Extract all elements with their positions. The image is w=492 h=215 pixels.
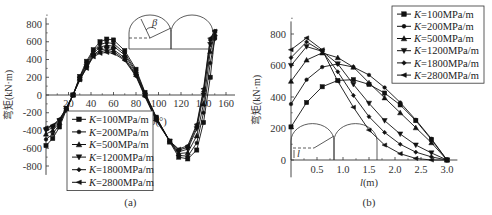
x-tick-label: 1.0 [336, 164, 349, 175]
tunnel-inset-a: β [129, 15, 213, 49]
chart-a: -800-600-400-200020040060080020406080100… [2, 15, 235, 209]
x-tick-label: 3.0 [440, 164, 453, 175]
data-point-circle [402, 24, 406, 28]
x-tick-label: 120 [173, 98, 189, 109]
y-tick-label: 600 [270, 60, 286, 71]
data-point-triangle-left [351, 105, 356, 109]
chart-b: 02004006008000.51.01.52.02.53.0l(m)弯矩(kN… [250, 6, 484, 209]
legend-label: K=100MPa/m [88, 114, 149, 125]
y-tick-label: -600 [23, 143, 42, 154]
legend-label: K=200MPa/m [413, 21, 474, 32]
data-point-circle [289, 102, 293, 106]
y-tick-label: -200 [23, 107, 42, 118]
legend-label: K=500MPa/m [88, 139, 149, 150]
figure-canvas: -800-600-400-200020040060080020406080100… [0, 0, 492, 215]
y-tick-label: 0 [281, 155, 286, 166]
data-point-square [383, 91, 387, 95]
y-tick-label: -800 [23, 161, 42, 172]
data-point-circle [383, 86, 387, 90]
data-point-square [44, 143, 48, 147]
panel-caption-b: (b) [363, 196, 376, 209]
data-point-circle [367, 73, 371, 77]
x-tick-label: 2.0 [388, 164, 401, 175]
x-tick-label: 80 [131, 98, 142, 109]
legend: K=100MPa/mK=200MPa/mK=500MPa/mK=1200MPa/… [67, 111, 154, 191]
y-axis-label: 弯矩(kN·m) [250, 75, 263, 125]
x-tick-label: 100 [151, 98, 167, 109]
x-axis-label: l(m) [360, 177, 379, 189]
y-tick-label: 0 [37, 90, 42, 101]
data-point-square [77, 117, 82, 122]
data-point-square [51, 136, 55, 140]
y-tick-label: 800 [26, 19, 42, 30]
legend-label: K=500MPa/m [413, 33, 474, 44]
data-point-square [289, 125, 293, 129]
data-point-circle [320, 65, 324, 69]
inset-beta-symbol: β [151, 17, 158, 28]
data-point-triangle-left [366, 128, 371, 132]
legend-label: K=1800MPa/m [413, 58, 479, 69]
data-point-square [105, 37, 109, 41]
panel-caption-a: (a) [124, 196, 137, 209]
data-point-triangle-down [413, 143, 418, 148]
tunnel-inset-b: l [291, 124, 377, 160]
legend: K=100MPa/mK=200MPa/mK=500MPa/mK=1200MPa/… [392, 6, 484, 83]
y-tick-label: 400 [270, 92, 286, 103]
legend-label: K=2800MPa/m [413, 70, 479, 81]
x-tick-label: 2.5 [414, 164, 427, 175]
data-point-triangle-down [398, 132, 403, 137]
data-point-square [402, 12, 407, 17]
legend-label: K=1800MPa/m [88, 164, 154, 175]
data-point-square [111, 38, 115, 42]
y-tick-label: 800 [270, 29, 286, 40]
legend-label: K=1200MPa/m [413, 45, 479, 56]
y-axis-label: 弯矩(kN·m) [2, 70, 15, 120]
y-tick-label: 400 [26, 54, 42, 65]
x-tick-label: 0.5 [310, 164, 323, 175]
y-tick-label: 200 [26, 72, 42, 83]
y-tick-label: -400 [23, 125, 42, 136]
data-point-diamond [414, 150, 418, 154]
data-point-square [351, 78, 355, 82]
data-point-circle [195, 141, 199, 145]
x-tick-label: 40 [86, 98, 97, 109]
legend-label: K=1200MPa/m [88, 152, 154, 163]
y-tick-label: 600 [26, 36, 42, 47]
data-point-square [305, 100, 309, 104]
y-tick-label: 200 [270, 123, 286, 134]
data-point-circle [305, 78, 309, 82]
data-point-square [320, 85, 324, 89]
data-point-triangle-up [304, 57, 309, 62]
legend-label: K=200MPa/m [88, 127, 149, 138]
data-point-circle [44, 138, 48, 142]
x-tick-label: 1.5 [362, 164, 375, 175]
data-point-circle [414, 118, 418, 122]
data-point-circle [398, 101, 402, 105]
inset-l-symbol: l [297, 148, 300, 159]
legend-label: K=2800MPa/m [88, 177, 154, 188]
data-point-circle [77, 130, 81, 134]
legend-label: K=100MPa/m [413, 9, 474, 20]
x-tick-label: 60 [108, 98, 119, 109]
x-tick-label: 160 [218, 98, 234, 109]
data-point-square [195, 148, 199, 152]
